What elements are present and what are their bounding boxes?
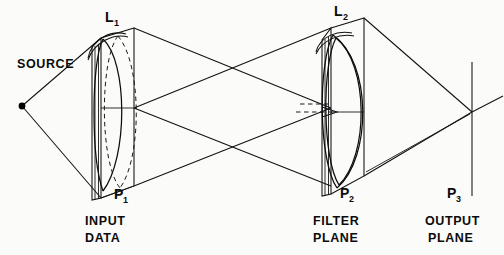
crossing-ray-bundle xyxy=(101,28,331,198)
input-caption-line1: INPUT xyxy=(85,214,126,228)
lens2-subscript: 2 xyxy=(343,12,348,22)
output-caption-line1: OUTPUT xyxy=(425,214,480,228)
diagram-canvas: SOURCE L 1 L 2 P 1 P 2 P 3 INPUT DATA FI… xyxy=(0,0,504,255)
label-lens2: L 2 xyxy=(334,3,348,22)
converging-ray-bundle xyxy=(331,18,503,176)
caption-output-plane: OUTPUT PLANE xyxy=(425,214,480,245)
lens1-symbol: L xyxy=(105,9,114,25)
filter-caption-line1: FILTER xyxy=(313,214,359,228)
label-plane2: P 2 xyxy=(340,185,354,204)
plane1-symbol: P xyxy=(114,186,123,202)
caption-filter-plane: FILTER PLANE xyxy=(313,214,359,245)
lens2-symbol: L xyxy=(334,3,343,19)
label-plane3: P 3 xyxy=(447,185,461,204)
input-caption-line2: DATA xyxy=(85,231,120,245)
label-lens1: L 1 xyxy=(105,9,119,28)
plane2-subscript: 2 xyxy=(349,194,354,204)
label-source: SOURCE xyxy=(17,57,74,71)
plane1-subscript: 1 xyxy=(123,195,128,205)
source-label: SOURCE xyxy=(17,57,74,71)
plane3-symbol: P xyxy=(447,185,456,201)
plane2-symbol: P xyxy=(340,185,349,201)
source-point xyxy=(19,103,26,110)
caption-input-data: INPUT DATA xyxy=(85,214,126,245)
optical-system-diagram: SOURCE L 1 L 2 P 1 P 2 P 3 INPUT DATA FI… xyxy=(0,0,504,255)
plane3-subscript: 3 xyxy=(456,194,461,204)
output-caption-line2: PLANE xyxy=(428,231,473,245)
lens1-subscript: 1 xyxy=(114,18,119,28)
filter-caption-line2: PLANE xyxy=(313,231,358,245)
